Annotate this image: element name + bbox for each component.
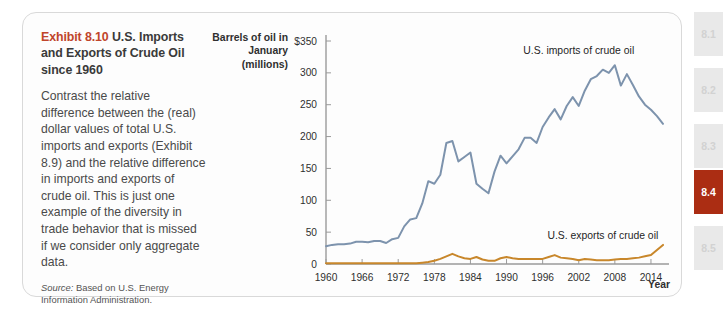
- x-tick-label: 2002: [567, 272, 590, 283]
- section-tab-8-1[interactable]: 8.1: [694, 12, 723, 56]
- x-tick-label: 1990: [495, 272, 518, 283]
- x-tick-label: 1978: [423, 272, 446, 283]
- section-tab-8-5[interactable]: 8.5: [694, 226, 723, 270]
- y-tick-label: 150: [300, 163, 317, 174]
- y-tick-label: 50: [306, 227, 318, 238]
- x-tick-label: 1996: [531, 272, 554, 283]
- x-axis-tick-labels: 1960196619721978198419901996200220082014: [315, 272, 663, 283]
- exhibit-source: Source: Based on U.S. Energy Information…: [41, 282, 206, 307]
- section-tab-label: 8.2: [701, 84, 716, 96]
- section-tab-8-3[interactable]: 8.3: [694, 124, 723, 168]
- x-tick-label: 1966: [351, 272, 374, 283]
- page-title: Exhibit 8.10 U.S. Imports and Exports of…: [41, 29, 206, 78]
- section-tab-8-2[interactable]: 8.2: [694, 68, 723, 112]
- section-tab-label: 8.1: [701, 28, 716, 40]
- section-tab-label: 8.3: [701, 140, 716, 152]
- y-tick-label: 300: [300, 67, 317, 78]
- exhibit-description: Contrast the relative difference between…: [41, 88, 206, 271]
- series-line: [326, 245, 663, 263]
- y-tick-label: 200: [300, 131, 317, 142]
- x-tick-label: 1984: [459, 272, 482, 283]
- section-tab-label: 8.5: [701, 242, 716, 254]
- section-tab-label: 8.4: [701, 186, 716, 198]
- series-annotation: U.S. imports of crude oil: [523, 45, 634, 56]
- y-tick-label: $350: [294, 36, 317, 47]
- source-label: Source:: [41, 282, 73, 293]
- series-annotation: U.S. exports of crude oil: [547, 230, 658, 241]
- y-tick-label: 0: [311, 259, 317, 270]
- line-chart-plot: $350300250200150100500 19601966197219781…: [208, 19, 678, 291]
- section-tab-8-4[interactable]: 8.4: [694, 170, 723, 214]
- exhibit-card: Exhibit 8.10 U.S. Imports and Exports of…: [22, 12, 682, 297]
- chart-figure: Barrels of oil in January (millions) $35…: [208, 19, 678, 291]
- caption-column: Exhibit 8.10 U.S. Imports and Exports of…: [41, 29, 206, 307]
- y-axis-tick-labels: $350300250200150100500: [294, 36, 317, 270]
- x-tick-label: 1960: [315, 272, 338, 283]
- x-tick-label: 2008: [604, 272, 627, 283]
- y-tick-label: 100: [300, 195, 317, 206]
- section-tab-strip: 8.18.28.38.48.5: [694, 0, 723, 309]
- series-annotations: U.S. imports of crude oilU.S. exports of…: [523, 45, 658, 241]
- x-tick-label: 1972: [387, 272, 410, 283]
- exhibit-number: Exhibit 8.10: [41, 30, 109, 44]
- series-line: [326, 65, 663, 246]
- x-axis-title: Year: [648, 279, 670, 290]
- y-tick-label: 250: [300, 99, 317, 110]
